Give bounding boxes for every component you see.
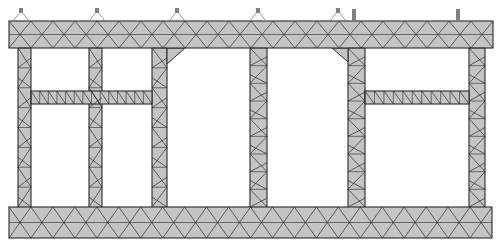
support-3 bbox=[169, 8, 185, 21]
support-4 bbox=[250, 8, 266, 21]
support-7 bbox=[456, 9, 460, 21]
mesh-canvas bbox=[0, 0, 503, 248]
support-2 bbox=[89, 8, 105, 21]
support-pin-icon bbox=[19, 8, 23, 13]
mesh-fill bbox=[9, 21, 493, 238]
support-post-icon bbox=[456, 9, 460, 21]
fe-mesh-diagram bbox=[0, 0, 503, 248]
haunch-col-3 bbox=[167, 48, 185, 64]
haunch-col-5 bbox=[332, 48, 348, 62]
support-pin-icon bbox=[175, 8, 179, 13]
support-5 bbox=[330, 8, 346, 21]
support-post-icon bbox=[352, 9, 356, 21]
support-pin-icon bbox=[256, 8, 260, 13]
supports bbox=[13, 8, 460, 21]
support-pin-icon bbox=[95, 8, 99, 13]
support-pin-icon bbox=[336, 8, 340, 13]
support-6 bbox=[352, 9, 356, 21]
support-1 bbox=[13, 8, 29, 21]
